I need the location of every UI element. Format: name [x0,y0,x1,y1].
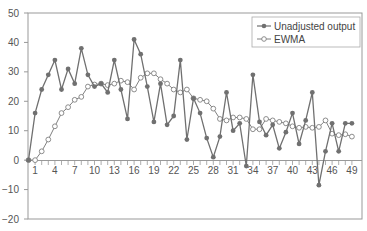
data-point-filled-circle-icon [86,72,91,77]
data-point-filled-circle-icon [125,117,130,122]
data-point-open-circle-icon [336,133,341,138]
chart: 50403020100−10−20 1471013161922252831343… [0,0,367,231]
data-point-filled-circle-icon [66,67,71,72]
data-point-open-circle-icon [270,118,275,123]
data-point-filled-circle-icon [112,58,117,63]
data-point-filled-circle-icon [244,164,249,169]
x-tick-label: 22 [168,165,180,176]
data-point-filled-circle-icon [185,137,190,142]
x-axis-labels: 1471013161922252831343740434649 [32,165,358,176]
data-point-open-circle-icon [257,127,262,132]
x-tick-label: 7 [72,165,78,176]
data-point-filled-circle-icon [277,146,282,151]
data-point-open-circle-icon [33,158,38,163]
x-tick-label: 49 [346,165,358,176]
data-point-filled-circle-icon [297,142,302,147]
y-tick-label: −10 [2,184,19,195]
legend-open-circle-icon [262,37,267,42]
x-tick-label: 28 [208,165,220,176]
data-point-open-circle-icon [53,124,58,129]
data-point-open-circle-icon [125,80,130,85]
data-point-filled-circle-icon [251,72,256,77]
data-point-filled-circle-icon [290,111,295,116]
x-tick-label: 31 [228,165,240,176]
data-point-filled-circle-icon [191,96,196,101]
data-point-filled-circle-icon [218,134,223,139]
data-point-open-circle-icon [66,105,71,110]
data-point-filled-circle-icon [72,81,77,86]
data-point-open-circle-icon [290,124,295,129]
y-tick-label: 40 [8,37,20,48]
data-point-open-circle-icon [211,106,216,111]
data-point-filled-circle-icon [270,122,275,127]
data-point-filled-circle-icon [39,87,44,92]
data-point-filled-circle-icon [336,149,341,154]
data-point-open-circle-icon [145,71,150,76]
data-point-filled-circle-icon [204,136,209,141]
data-point-filled-circle-icon [145,84,150,89]
data-point-open-circle-icon [350,134,355,139]
x-tick-label: 37 [267,165,279,176]
x-tick-label: 16 [129,165,141,176]
data-point-open-circle-icon [297,125,302,130]
x-tick-label: 40 [287,165,299,176]
data-point-filled-circle-icon [99,81,104,86]
x-tick-label: 43 [307,165,319,176]
y-tick-label: 10 [8,125,20,136]
data-point-open-circle-icon [112,81,117,86]
y-axis-labels: 50403020100−10−20 [2,8,28,225]
data-point-filled-circle-icon [264,133,269,138]
data-point-open-circle-icon [224,118,229,123]
data-point-filled-circle-icon [79,46,84,51]
data-point-open-circle-icon [59,111,64,116]
y-tick-label: 30 [8,66,20,77]
data-point-open-circle-icon [158,77,163,82]
data-point-filled-circle-icon [119,87,124,92]
data-point-open-circle-icon [171,87,176,92]
data-point-open-circle-icon [72,97,77,102]
data-point-filled-circle-icon [105,90,110,95]
data-point-open-circle-icon [251,127,256,132]
data-point-open-circle-icon [39,149,44,154]
data-point-open-circle-icon [264,117,269,122]
y-tick-label: 50 [8,8,20,19]
series-line [29,40,352,186]
data-point-filled-circle-icon [211,155,216,160]
data-point-filled-circle-icon [26,158,31,163]
data-point-open-circle-icon [198,97,203,102]
data-point-open-circle-icon [323,118,328,123]
data-point-filled-circle-icon [237,121,242,126]
x-tick-label: 10 [89,165,101,176]
data-point-filled-circle-icon [343,121,348,126]
data-point-filled-circle-icon [257,119,262,124]
data-point-open-circle-icon [86,84,91,89]
data-point-filled-circle-icon [224,90,229,95]
data-point-open-circle-icon [138,75,143,80]
data-point-open-circle-icon [132,87,137,92]
data-point-open-circle-icon [204,99,209,104]
data-point-filled-circle-icon [350,121,355,126]
data-point-filled-circle-icon [178,58,183,63]
data-point-filled-circle-icon [330,121,335,126]
legend-label-unadjusted-output: Unadjusted output [274,21,355,32]
x-tick-label: 46 [327,165,339,176]
data-point-filled-circle-icon [53,58,58,63]
data-point-open-circle-icon [178,90,183,95]
data-point-open-circle-icon [277,119,282,124]
data-point-filled-circle-icon [231,128,236,133]
data-point-filled-circle-icon [171,114,176,119]
data-point-open-circle-icon [244,117,249,122]
data-point-open-circle-icon [79,94,84,99]
data-point-filled-circle-icon [152,119,157,124]
x-tick-label: 4 [52,165,58,176]
data-point-open-circle-icon [317,124,322,129]
data-point-open-circle-icon [152,71,157,76]
data-point-filled-circle-icon [59,87,64,92]
data-point-filled-circle-icon [323,149,328,154]
data-point-filled-circle-icon [165,122,170,127]
data-point-filled-circle-icon [46,72,51,77]
data-point-open-circle-icon [218,117,223,122]
y-tick-label: 0 [13,155,19,166]
data-point-open-circle-icon [165,81,170,86]
legend-label-ewma: EWMA [274,34,305,45]
